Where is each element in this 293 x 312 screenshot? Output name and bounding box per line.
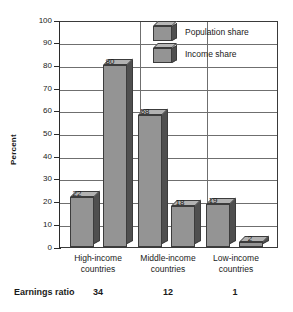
y-axis-title: Percent bbox=[8, 110, 20, 190]
gridline-60 bbox=[60, 112, 277, 113]
bar-value-label-middle-income-population: 58 bbox=[130, 108, 160, 116]
category-label-line1: High-income bbox=[58, 253, 138, 264]
y-tick-label-30: 30 bbox=[26, 175, 52, 183]
category-label-line2: countries bbox=[196, 264, 276, 275]
bar-value-label-high-income-population: 22 bbox=[62, 190, 92, 198]
legend-item-income-share: Income share bbox=[147, 42, 267, 64]
y-tick-label-80: 80 bbox=[26, 62, 52, 70]
bar-value-label-low-income-population: 19 bbox=[198, 197, 228, 205]
bar-value-label-low-income-income: 2 bbox=[235, 235, 265, 243]
bar-low-income-population-share bbox=[206, 204, 230, 247]
bar-side-face bbox=[195, 200, 201, 244]
bar-front-face bbox=[171, 206, 195, 247]
bar-value-label-middle-income-income: 18 bbox=[165, 199, 195, 207]
category-label-line1: Low-income bbox=[196, 253, 276, 264]
bar-front-face bbox=[103, 65, 127, 247]
legend-swatch-cube-icon bbox=[153, 48, 172, 63]
bar-side-face bbox=[127, 59, 133, 244]
y-tick-label-20: 20 bbox=[26, 198, 52, 206]
y-tick-label-100: 100 bbox=[26, 17, 52, 25]
y-tick-label-50: 50 bbox=[26, 130, 52, 138]
earnings-ratio-value-low-income: 1 bbox=[205, 286, 265, 298]
bar-front-face bbox=[138, 115, 162, 247]
earnings-ratio-row: Earnings ratio 34 12 1 bbox=[0, 286, 293, 302]
y-tick-label-90: 90 bbox=[26, 39, 52, 47]
bar-middle-income-income-share bbox=[171, 206, 195, 247]
bar-middle-income-population-share bbox=[138, 115, 162, 247]
y-tick-label-70: 70 bbox=[26, 85, 52, 93]
y-tick-label-60: 60 bbox=[26, 107, 52, 115]
legend-item-population-share: Population share bbox=[147, 20, 267, 42]
bar-front-face bbox=[70, 197, 94, 247]
earnings-ratio-value-high-income: 34 bbox=[68, 286, 128, 298]
bar-side-face bbox=[162, 109, 168, 244]
bar-value-label-high-income-income: 80 bbox=[95, 58, 125, 66]
legend-swatch-side bbox=[172, 45, 177, 63]
gridline-30 bbox=[60, 180, 277, 181]
chart-legend: Population share Income share bbox=[147, 20, 267, 64]
earnings-ratio-value-middle-income: 12 bbox=[138, 286, 198, 298]
bar-high-income-population-share bbox=[70, 197, 94, 247]
legend-swatch-side bbox=[172, 23, 177, 41]
bar-high-income-income-share bbox=[103, 65, 127, 247]
earnings-ratio-title: Earnings ratio bbox=[14, 286, 75, 298]
bar-chart-figure: Percent 100 90 80 70 60 50 40 30 20 10 0 bbox=[0, 0, 293, 312]
category-label-low-income: Low-income countries bbox=[196, 253, 276, 275]
y-tick-label-10: 10 bbox=[26, 221, 52, 229]
bar-side-face bbox=[94, 191, 100, 244]
legend-label-income-share: Income share bbox=[185, 49, 237, 59]
gridline-80 bbox=[60, 67, 277, 68]
y-tick-label-40: 40 bbox=[26, 153, 52, 161]
gridline-40 bbox=[60, 158, 277, 159]
y-tick-label-0: 0 bbox=[26, 244, 52, 252]
category-label-line2: countries bbox=[58, 264, 138, 275]
legend-swatch-cube-icon bbox=[153, 26, 172, 41]
category-label-high-income: High-income countries bbox=[58, 253, 138, 275]
gridline-50 bbox=[60, 135, 277, 136]
bar-front-face bbox=[206, 204, 230, 247]
legend-swatch-front bbox=[153, 48, 172, 63]
legend-swatch-front bbox=[153, 26, 172, 41]
legend-label-population-share: Population share bbox=[185, 27, 249, 37]
gridline-70 bbox=[60, 90, 277, 91]
